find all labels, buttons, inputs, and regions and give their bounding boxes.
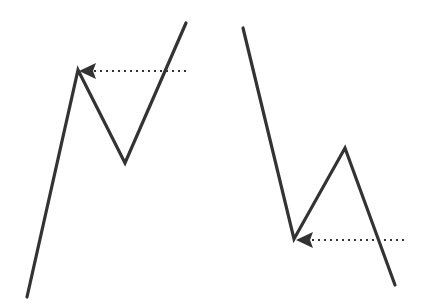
figure-background <box>0 0 423 307</box>
figure-root <box>0 0 423 307</box>
zigzag-diagram-svg <box>0 0 423 307</box>
